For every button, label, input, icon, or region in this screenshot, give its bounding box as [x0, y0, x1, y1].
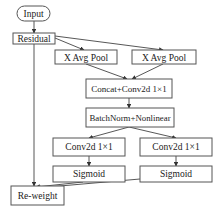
node-x-avg-pool-right-label: X Avg Pool: [142, 53, 187, 63]
node-sigmoid-right: Sigmoid: [140, 166, 212, 182]
node-x-avg-pool-left: X Avg Pool: [55, 50, 117, 64]
node-batchnorm: BatchNorm+Nonlinear: [86, 108, 174, 127]
node-conv-left-label: Conv2d 1×1: [65, 142, 113, 152]
node-sigmoid-right-label: Sigmoid: [160, 169, 192, 179]
node-sigmoid-left-label: Sigmoid: [73, 169, 105, 179]
edge-pool-left-concat: [86, 64, 127, 79]
edge-residual-pool-right: [55, 36, 163, 50]
edge-batchnorm-conv-left: [89, 127, 129, 138]
node-batchnorm-label: BatchNorm+Nonlinear: [89, 113, 170, 123]
node-sigmoid-left: Sigmoid: [53, 166, 125, 182]
node-concat-conv-label: Concat+Conv2d 1×1: [91, 84, 166, 94]
edge-residual-pool-left: [55, 38, 84, 50]
node-input-label: Input: [23, 9, 43, 19]
node-input: Input: [17, 6, 50, 21]
node-residual: Residual: [13, 33, 55, 44]
node-x-avg-pool-right: X Avg Pool: [132, 50, 196, 64]
attention-block-diagram: Input Residual X Avg Pool X Avg Pool Con…: [0, 0, 223, 215]
edge-batchnorm-conv-right: [129, 127, 176, 138]
node-concat-conv: Concat+Conv2d 1×1: [86, 79, 172, 98]
edge-pool-right-concat: [132, 64, 163, 79]
node-conv-right-label: Conv2d 1×1: [152, 142, 200, 152]
node-x-avg-pool-left-label: X Avg Pool: [64, 53, 109, 63]
node-reweight: Re-weight: [11, 186, 64, 205]
edges: [34, 21, 176, 188]
node-conv-left: Conv2d 1×1: [53, 138, 125, 156]
node-residual-label: Residual: [17, 34, 51, 44]
node-conv-right: Conv2d 1×1: [140, 138, 212, 156]
node-reweight-label: Re-weight: [18, 191, 58, 201]
